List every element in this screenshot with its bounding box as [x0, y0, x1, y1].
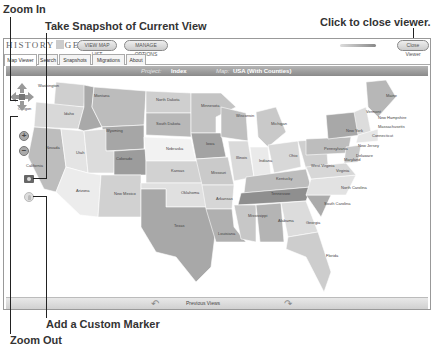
- tab-map-viewer[interactable]: Map Viewer: [4, 54, 37, 66]
- state-label: Kansas: [171, 168, 184, 173]
- tab-migrations[interactable]: Migrations: [92, 54, 125, 65]
- callout-line-zoom-in-h: [10, 100, 18, 101]
- view-map-list-button[interactable]: VIEW MAP LIST: [77, 40, 117, 51]
- map-title-bar: Project: Index Map: USA (With Counties): [6, 66, 428, 76]
- tab-snapshots[interactable]: Snapshots: [59, 54, 91, 65]
- state-label: Massachusetts: [378, 124, 405, 129]
- state-label: Minnesota: [201, 103, 220, 108]
- tab-about[interactable]: About: [126, 54, 146, 65]
- callout-line-marker: [46, 196, 47, 318]
- callout-custom-marker: Add a Custom Marker: [46, 318, 160, 330]
- state-label: Vermont: [366, 109, 382, 114]
- state-label: South Dakota: [156, 121, 181, 126]
- state-label: Idaho: [64, 111, 75, 116]
- state-label: Nebraska: [166, 146, 184, 151]
- state-label: Mississippi: [248, 213, 267, 218]
- forward-arrow-icon[interactable]: ↷: [284, 299, 292, 309]
- pan-up-icon: [17, 83, 27, 93]
- state-label: North Carolina: [341, 185, 368, 190]
- previous-views-label: Previous Views: [186, 300, 220, 306]
- state-label: Arizona: [76, 188, 90, 193]
- logo-text-history: HISTORY: [6, 40, 55, 50]
- state-label: Montana: [94, 93, 110, 98]
- zoom-out-button[interactable]: −: [19, 146, 29, 156]
- callout-line-snapshot: [46, 33, 47, 178]
- previous-views-bar: ↶ Previous Views ↷: [6, 297, 428, 309]
- minus-icon: −: [22, 146, 27, 155]
- state-label: Pennsylvania: [324, 146, 349, 151]
- callout-snapshot: Take Snapshot of Current View: [45, 20, 207, 32]
- camera-icon: [27, 177, 31, 181]
- callout-line-zoom-out-h: [10, 116, 18, 117]
- state-label: New Mexico: [114, 191, 137, 196]
- state-label: Illinois: [236, 155, 247, 160]
- marker-icon: [28, 195, 31, 200]
- zoom-in-button[interactable]: +: [19, 131, 29, 141]
- map-label: Map:: [216, 66, 229, 76]
- map-canvas[interactable]: WashingtonOregonIdahoMontanaWyomingNevad…: [6, 77, 428, 297]
- state-label: Texas: [174, 223, 184, 228]
- state-label: California: [26, 163, 44, 168]
- history-geo-viewer: HISTORYGEO VIEW MAP LIST MANAGE OPTIONS …: [3, 38, 431, 310]
- state-label: Wisconsin: [236, 113, 254, 118]
- state-label: New York: [346, 128, 363, 133]
- state-label: Nevada: [46, 145, 61, 150]
- state-label: South Carolina: [324, 201, 351, 206]
- state-label: Maryland: [344, 157, 360, 162]
- state-label: Indiana: [259, 158, 273, 163]
- top-bar: HISTORYGEO VIEW MAP LIST MANAGE OPTIONS …: [4, 39, 430, 53]
- callout-line-snapshot-h: [33, 178, 47, 179]
- state-label: Ohio: [289, 153, 298, 158]
- close-viewer-button[interactable]: Close Viewer: [397, 40, 429, 51]
- state-label: Louisiana: [218, 231, 236, 236]
- state-label: Kentucky: [276, 176, 292, 181]
- logo-mark-icon: [56, 40, 64, 49]
- project-label: Project:: [141, 66, 161, 76]
- state-label: Alabama: [278, 218, 295, 223]
- back-arrow-icon[interactable]: ↶: [151, 299, 159, 309]
- pan-down-icon: [17, 101, 27, 111]
- state-label: Maine: [386, 93, 398, 98]
- pan-control[interactable]: [10, 83, 34, 111]
- state-label: Colorado: [116, 156, 133, 161]
- plus-icon: +: [22, 131, 27, 140]
- callout-zoom-out: Zoom Out: [10, 334, 62, 346]
- state-label: New Hampshire: [378, 115, 407, 120]
- callout-close-viewer: Click to close viewer.: [320, 16, 431, 28]
- state-label: West Virginia: [311, 163, 335, 168]
- state-label: Florida: [326, 253, 339, 258]
- usa-map[interactable]: WashingtonOregonIdahoMontanaWyomingNevad…: [6, 77, 428, 297]
- callout-zoom-in: Zoom In: [3, 3, 46, 15]
- opacity-slider[interactable]: [340, 44, 376, 47]
- snapshot-button[interactable]: [24, 175, 34, 183]
- state-label: Iowa: [206, 141, 215, 146]
- callout-line-close: [413, 28, 414, 38]
- state-label: North Dakota: [156, 97, 180, 102]
- pan-right-icon: [24, 92, 34, 102]
- callout-line-zoom-in: [10, 17, 11, 101]
- state-label: Utah: [76, 150, 84, 155]
- state-label: Georgia: [306, 220, 321, 225]
- state-label: Arkansas: [216, 196, 233, 201]
- manage-options-button[interactable]: MANAGE OPTIONS: [124, 40, 168, 51]
- add-marker-button[interactable]: [24, 192, 34, 202]
- map-value: USA (With Counties): [233, 66, 291, 76]
- state-label: Wyoming: [106, 128, 123, 133]
- tab-search[interactable]: Search: [38, 54, 58, 65]
- state-label: Michigan: [271, 121, 287, 126]
- callout-line-marker-h: [33, 196, 47, 197]
- state-label: New Jersey: [358, 143, 379, 148]
- state-label: Washington: [38, 83, 59, 88]
- tab-bar: Map Viewer Search Snapshots Migrations A…: [4, 54, 430, 65]
- callout-line-zoom-out: [10, 116, 11, 334]
- state-label: Missouri: [211, 170, 226, 175]
- state-label: Tennessee: [271, 191, 291, 196]
- state-label: Virginia: [336, 168, 350, 173]
- state-label: Oklahoma: [181, 190, 200, 195]
- pan-center-icon: [19, 94, 25, 100]
- state-label: Connecticut: [372, 133, 394, 138]
- project-value: Index: [171, 66, 187, 76]
